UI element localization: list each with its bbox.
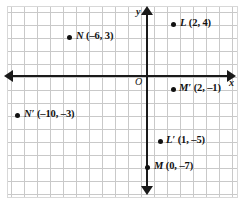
y-axis-up-arrow-icon xyxy=(141,6,153,15)
data-point-M-prime xyxy=(171,87,176,92)
point-name-N-prime: N′ xyxy=(24,108,34,119)
point-coords-N-prime: (–10, –3) xyxy=(37,108,75,119)
y-axis-label: y xyxy=(136,6,140,17)
data-point-label-L: L (2, 4) xyxy=(180,17,211,28)
point-coords-M-prime: (2, –1) xyxy=(194,82,221,93)
y-axis xyxy=(146,14,148,187)
point-coords-L: (2, 4) xyxy=(189,17,211,28)
data-point-M xyxy=(145,165,150,170)
data-point-N-prime xyxy=(15,113,20,118)
point-name-N: N xyxy=(76,30,83,41)
data-point-label-M-prime: M′ (2, –1) xyxy=(179,82,221,93)
data-point-label-M: M (0, –7) xyxy=(154,160,193,171)
data-point-N xyxy=(67,35,72,40)
point-coords-M: (0, –7) xyxy=(166,160,193,171)
x-axis-label: x xyxy=(229,77,234,88)
x-axis-left-arrow-icon xyxy=(4,70,13,82)
data-point-label-N: N (–6, 3) xyxy=(76,30,113,41)
data-point-label-L-prime: L′ (1, –5) xyxy=(166,134,205,145)
point-name-M-prime: M′ xyxy=(179,82,191,93)
data-point-L-prime xyxy=(158,139,163,144)
data-point-L xyxy=(171,22,176,27)
data-point-label-N-prime: N′ (–10, –3) xyxy=(24,108,74,119)
point-name-L: L xyxy=(180,17,186,28)
point-name-M: M xyxy=(154,160,163,171)
grid-background xyxy=(7,6,238,198)
point-name-L-prime: L′ xyxy=(166,134,175,145)
coordinate-plane-figure: y x O L (2, 4) N (–6, 3) M′ (2, –1) N′ (… xyxy=(0,0,246,203)
point-coords-L-prime: (1, –5) xyxy=(178,134,205,145)
origin-label: O xyxy=(135,76,142,87)
point-coords-N: (–6, 3) xyxy=(86,30,113,41)
y-axis-down-arrow-icon xyxy=(141,186,153,195)
x-axis xyxy=(12,75,228,77)
